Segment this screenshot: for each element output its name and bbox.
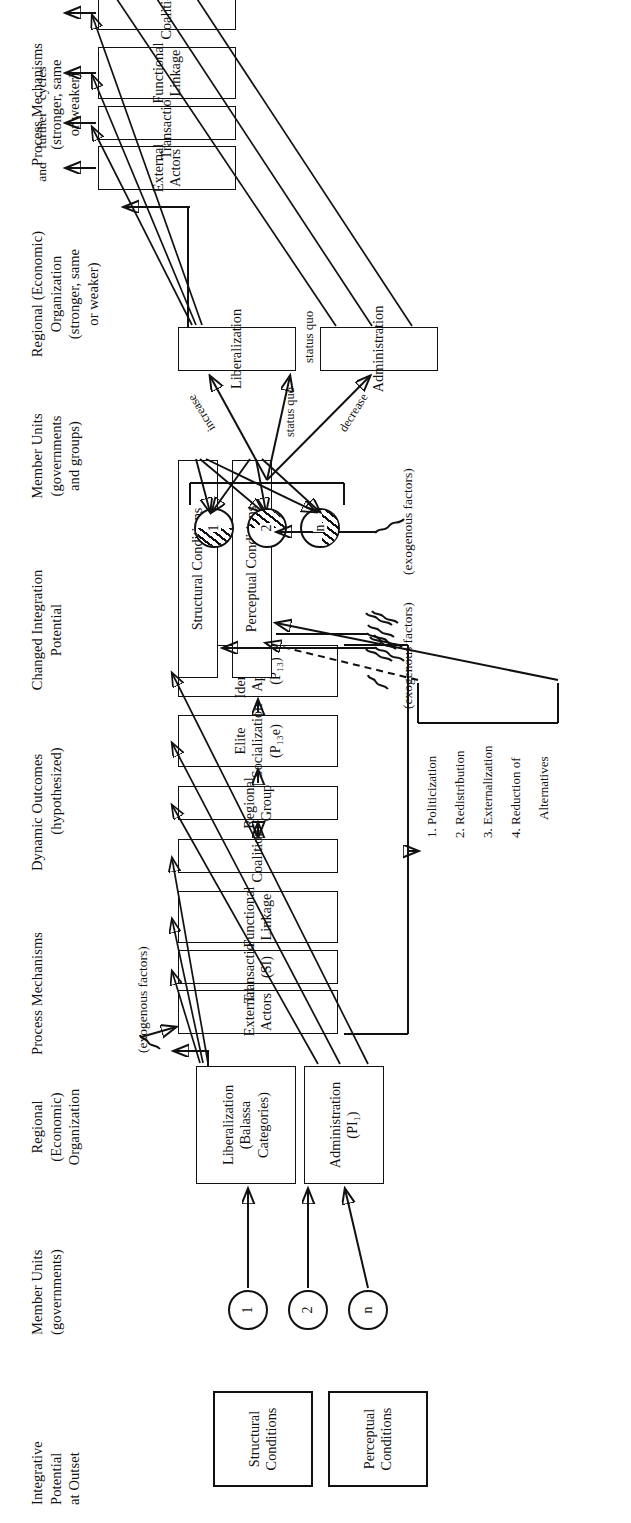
item-text: Reduction of: [508, 757, 523, 825]
note-line-3: cycles: [34, 62, 50, 104]
dynamic-outcome-item-2: 2. Redistribution: [452, 751, 468, 838]
box-line: (PI₁): [344, 1080, 361, 1171]
column-heading-member-units-1: Member Units (governments): [28, 1195, 65, 1335]
pm2-box-functional-linkage: Functional Linkage: [98, 47, 236, 99]
status-quo-text: status quo: [301, 311, 316, 363]
item-number: 3.: [480, 828, 495, 838]
heading-line: (hypothesized): [47, 711, 66, 871]
box-line: Linkage: [167, 40, 184, 105]
box-line: Perceptual: [361, 1406, 378, 1473]
change-text: increase: [185, 392, 218, 434]
node-label: 1: [207, 524, 221, 533]
column-heading-process-mechanisms-1: Process Mechanisms: [28, 885, 47, 1055]
column-heading-dynamic-outcomes: Dynamic Outcomes (hypothesized): [28, 711, 65, 871]
exogenous-squiggle-arrow-B: [277, 519, 404, 533]
item-text: Alternatives: [536, 756, 551, 820]
pm1-box-transactions: Transactions (SI): [178, 950, 338, 984]
change-text: decrease: [336, 391, 370, 435]
item-text: Politicization: [424, 756, 439, 825]
node-label: n: [313, 524, 327, 533]
box-line: Functional: [150, 40, 167, 105]
dynamic-outcome-item-4: 4. Reduction of: [508, 757, 524, 838]
pm2-box-transactions: Transactions: [98, 106, 236, 140]
box-line: Coalition: [249, 827, 266, 884]
pm2-box-coalition: Coalition: [98, 0, 236, 30]
heading-line: Changed Integration: [28, 545, 47, 715]
box-perceptual-conditions-outset: Perceptual Conditions: [328, 1391, 428, 1487]
box-line: Functional: [241, 884, 258, 949]
heading-line: Potential: [47, 545, 66, 715]
column-heading-regional-org-2: Regional (Economic) Organization (strong…: [28, 199, 102, 389]
pm1-box-elite-socialization: Elite Socialization (P₁₃e): [178, 715, 338, 767]
exogenous-text: (exogenous factors): [400, 602, 415, 709]
heading-line: Potential: [47, 1355, 66, 1505]
member-unit-node-1: 1: [228, 1290, 268, 1330]
heading-line: Regional: [28, 1067, 47, 1187]
exogenous-factors-label-1: (exogenous factors): [135, 946, 151, 1053]
box-line: Regional Group: [241, 775, 276, 831]
exogenous-factors-label-2: (exogenous factors): [400, 602, 416, 709]
node-label: 1: [241, 1306, 255, 1315]
status-quo-label: status quo: [301, 311, 317, 363]
dynamic-outcome-item-3: 3. Externalization: [480, 746, 496, 838]
column-heading-regional-org-1: Regional (Economic) Organization: [28, 1067, 84, 1187]
note-line-1: and: [34, 157, 50, 187]
arrows-member-units-to-regional-org-1: [248, 1189, 368, 1288]
box-line: (Balassa: [237, 1083, 254, 1167]
change-label-decrease: decrease: [336, 391, 371, 435]
box-structural-conditions-changed: Structural Conditions: [178, 460, 218, 678]
arrows-regional-org-2-to-process-mechanisms-2: [120, 207, 196, 327]
heading-line: at Outset: [65, 1355, 84, 1505]
item-text: Redistribution: [452, 751, 467, 825]
column-heading-changed-integration-potential: Changed Integration Potential: [28, 545, 65, 715]
box-line: Elite Socialization: [232, 702, 267, 781]
item-number: 4.: [508, 828, 523, 838]
continuation-note: and further cycles: [34, 57, 50, 187]
heading-line: Member Units: [28, 381, 47, 531]
box-line: Conditions: [378, 1406, 395, 1473]
heading-line: Process Mechanisms: [28, 885, 47, 1055]
pm1-box-regional-group: Regional Group: [178, 786, 338, 820]
box-line: Administration: [327, 1080, 344, 1171]
box-liberalization-2: Liberalization: [178, 327, 296, 371]
box-line: Liberalization: [228, 307, 245, 391]
box-line: Categories): [255, 1083, 272, 1167]
figure-page: Integrative Potential at Outset Member U…: [0, 0, 631, 1523]
heading-line: Organization: [47, 199, 66, 389]
item-number: 2.: [452, 828, 467, 838]
column-heading-member-units-2: Member Units (governments and groups): [28, 381, 84, 531]
heading-line: (stronger, same: [65, 199, 84, 389]
change-label-status-quo: status quo: [283, 387, 298, 437]
heading-line: Member Units: [28, 1195, 47, 1335]
box-line: Structural: [246, 1406, 263, 1473]
box-perceptual-conditions-changed: Perceptual Conditions: [232, 460, 272, 678]
heading-line: (governments): [47, 1195, 66, 1335]
column-heading-integrative-potential: Integrative Potential at Outset: [28, 1355, 84, 1505]
box-line: (P₁₃e): [267, 702, 284, 781]
box-line: Administration: [370, 304, 387, 395]
change-text: status quo: [283, 387, 297, 437]
heading-line: (Economic): [47, 1067, 66, 1187]
box-structural-conditions-outset: Structural Conditions: [213, 1391, 313, 1487]
box-line: Linkage: [258, 884, 275, 949]
note-line-2: further: [34, 108, 50, 154]
exogenous-text: (exogenous factors): [400, 468, 415, 575]
box-line: Conditions: [263, 1406, 280, 1473]
heading-line: Dynamic Outcomes: [28, 711, 47, 871]
heading-line: (governments: [47, 381, 66, 531]
box-administration-2: Administration: [320, 327, 438, 371]
member-unit-2-node-1: 1: [194, 508, 234, 548]
change-label-increase: increase: [185, 392, 219, 434]
node-label: n: [361, 1306, 375, 1315]
exogenous-factors-label-3: (exogenous factors): [400, 468, 416, 575]
heading-line: Organization: [65, 1067, 84, 1187]
member-unit-2-node-n: n: [300, 508, 340, 548]
box-liberalization-balassa: Liberalization (Balassa Categories): [196, 1066, 296, 1184]
item-number: 1.: [424, 828, 439, 838]
box-line: Liberalization: [220, 1083, 237, 1167]
heading-line: Regional (Economic): [28, 199, 47, 389]
member-unit-2-node-2: 2: [247, 508, 287, 548]
figure-canvas: Integrative Potential at Outset Member U…: [0, 0, 631, 1523]
node-label: 2: [301, 1306, 315, 1315]
heading-line: Integrative: [28, 1355, 47, 1505]
